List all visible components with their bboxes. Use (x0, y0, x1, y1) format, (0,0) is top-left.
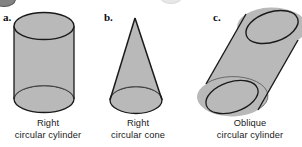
caption-line-2: circular cylinder (198, 130, 302, 142)
figure-page: a. b. c. Right circular cylinder Right c… (0, 0, 302, 147)
caption-right-circular-cone: Right circular cone (90, 118, 186, 141)
item-letter-a: a. (3, 12, 11, 23)
caption-line-1: Right (0, 118, 96, 130)
right-circular-cylinder (14, 13, 74, 113)
caption-line-2: circular cylinder (0, 130, 96, 142)
caption-line-1: Oblique (198, 118, 302, 130)
caption-oblique-circular-cylinder: Oblique circular cylinder (198, 118, 302, 141)
caption-line-2: circular cone (90, 130, 186, 142)
item-letter-b: b. (104, 12, 113, 23)
right-circular-cone (110, 18, 162, 114)
caption-line-1: Right (90, 118, 186, 130)
item-letter-c: c. (213, 12, 221, 23)
caption-right-circular-cylinder: Right circular cylinder (0, 118, 96, 141)
cylinder-top-ellipse (14, 13, 74, 40)
